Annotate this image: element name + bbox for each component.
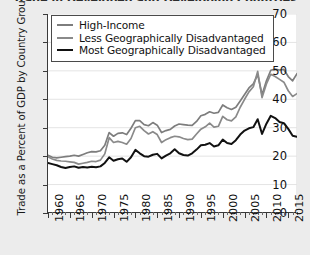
y-tick [43,99,48,100]
x-tick-label: 1975 [118,194,131,222]
x-tick-major [288,212,289,218]
legend-swatch [57,24,73,26]
x-tick-label: 1960 [53,194,66,222]
x-tick-minor [109,212,110,215]
legend-item: High-Income [57,19,266,32]
legend-label: Less Geographically Disadvantaged [79,32,264,44]
x-tick-label: 2000 [227,194,240,222]
y-tick-label: 40 [272,92,287,106]
x-tick-label: 2015 [293,194,306,222]
chart-title: Trade in Developed and Developing Countr… [0,0,310,1]
y-tick-label: 50 [272,64,287,78]
y-tick-label: 60 [272,35,287,49]
x-tick-major [48,212,49,218]
x-tick-label: 1990 [184,194,197,222]
x-tick-major [201,212,202,218]
x-tick-minor [262,212,263,215]
y-tick [43,42,48,43]
x-tick-label: 1985 [162,194,175,222]
y-axis-label: Trade as a Percent of GDP by Country Gro… [16,6,27,216]
x-tick-minor [284,212,285,215]
series-line [48,116,297,168]
y-tick [43,185,48,186]
x-tick-minor [87,212,88,215]
x-tick-label: 1965 [74,194,87,222]
y-tick [43,71,48,72]
y-tick-label: 10 [272,178,287,192]
legend-label: Most Geographically Disadvantaged [79,44,266,56]
x-tick-label: 2010 [271,194,284,222]
x-tick-label: 1995 [205,194,218,222]
x-tick-label: 1980 [140,194,153,222]
x-tick-minor [131,212,132,215]
y-tick [43,128,48,129]
x-tick-minor [240,212,241,215]
x-tick-major [157,212,158,218]
legend-swatch [57,49,73,51]
legend-item: Less Geographically Disadvantaged [57,32,266,45]
x-tick-major [266,212,267,218]
x-tick-major [135,212,136,218]
y-tick-label: 70 [272,7,287,21]
x-tick-major [92,212,93,218]
x-tick-major [70,212,71,218]
y-tick [43,14,48,15]
legend-label: High-Income [79,19,145,31]
chart-legend: High-IncomeLess Geographically Disadvant… [51,15,274,62]
x-tick-major [179,212,180,218]
y-tick [43,156,48,157]
x-tick-minor [218,212,219,215]
x-tick-major [114,212,115,218]
x-tick-label: 1970 [96,194,109,222]
legend-item: Most Geographically Disadvantaged [57,44,266,57]
x-tick-major [245,212,246,218]
y-tick-label: 20 [272,149,287,163]
y-tick-label: 30 [272,121,287,135]
legend-swatch [57,37,73,39]
chart-figure: Trade in Developed and Developing Countr… [0,0,310,255]
x-tick-major [223,212,224,218]
x-tick-label: 2005 [249,194,262,222]
